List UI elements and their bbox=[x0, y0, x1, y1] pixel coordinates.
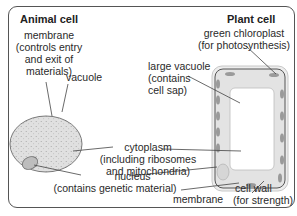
nucleus-label: nucleus (contains genetic material) bbox=[40, 170, 190, 194]
plant-vacuole bbox=[230, 88, 274, 170]
cell-wall-label: cell wall (for strength) bbox=[233, 182, 293, 206]
animal-membrane-label: membrane (controls entry and exit of mat… bbox=[14, 29, 84, 77]
large-vacuole-label: large vacuole (contains cell sap) bbox=[148, 60, 210, 96]
animal-vacuole-label: vacuole bbox=[66, 71, 102, 83]
animal-cell-title: Animal cell bbox=[20, 13, 78, 25]
animal-cell bbox=[10, 116, 82, 172]
plant-cell-title: Plant cell bbox=[227, 13, 275, 25]
chloroplast-label: green chloroplast (for photosynthesis) bbox=[192, 27, 296, 51]
plant-membrane-label: membrane bbox=[173, 193, 223, 205]
plant-nucleus bbox=[217, 164, 229, 180]
plant-cell bbox=[212, 66, 288, 191]
